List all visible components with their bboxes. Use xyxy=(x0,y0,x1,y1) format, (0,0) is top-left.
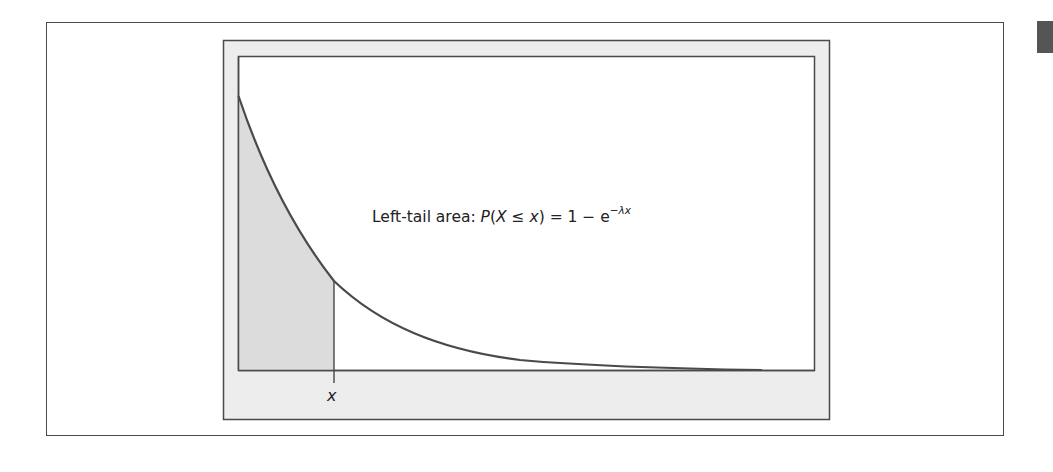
formula-leq: ≤ xyxy=(507,208,530,226)
x-marker-label: x xyxy=(327,386,336,405)
formula-prefix: Left-tail area: xyxy=(372,208,481,226)
exponential-distribution-chart xyxy=(0,0,1053,472)
left-tail-area-formula: Left-tail area: P(X ≤ x) = 1 − e−λx xyxy=(372,206,631,226)
formula-p: P xyxy=(481,208,490,226)
formula-var-x: x xyxy=(529,208,538,226)
formula-exponent: −λx xyxy=(610,204,631,216)
formula-var-X: X xyxy=(496,208,507,226)
formula-close-eq: ) = 1 − e xyxy=(539,208,610,226)
